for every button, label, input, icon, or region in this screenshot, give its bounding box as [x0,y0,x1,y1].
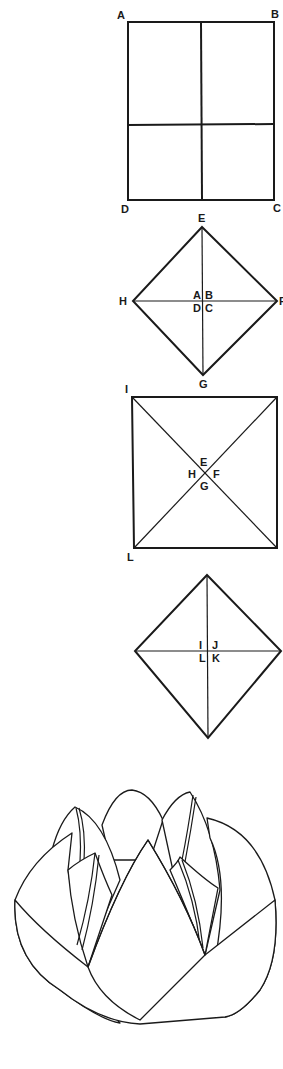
label-center-l: L [199,652,206,664]
label-b: B [271,8,279,20]
label-center-k: K [212,652,220,664]
step-1-square: A B C D [117,8,281,215]
label-center-i: I [199,639,202,651]
label-h: H [119,295,127,307]
label-e: E [198,212,205,224]
label-center-e: E [200,456,207,468]
label-center-d: D [193,302,201,314]
label-a: A [117,9,125,21]
label-l: L [127,551,134,563]
label-d: D [121,203,129,215]
step-4-diamond: I J L K [135,575,281,738]
step-2-diamond: E H F G A B D C [119,212,283,390]
label-center-a: A [193,289,201,301]
label-f: F [279,295,283,307]
label-center-c: C [205,302,213,314]
label-center-f: F [213,468,220,480]
step-5-lotus [15,790,276,1024]
label-c: C [273,202,281,214]
origami-diagram: A B C D E H F G A B D C I L E H F G I J … [0,0,283,1069]
label-g: G [199,378,208,390]
label-center-j: J [212,639,218,651]
label-center-h: H [188,468,196,480]
label-i: I [125,383,128,395]
step-3-square-diagonals: I L E H F G [125,383,277,563]
label-center-g: G [200,480,209,492]
label-center-b: B [205,289,213,301]
